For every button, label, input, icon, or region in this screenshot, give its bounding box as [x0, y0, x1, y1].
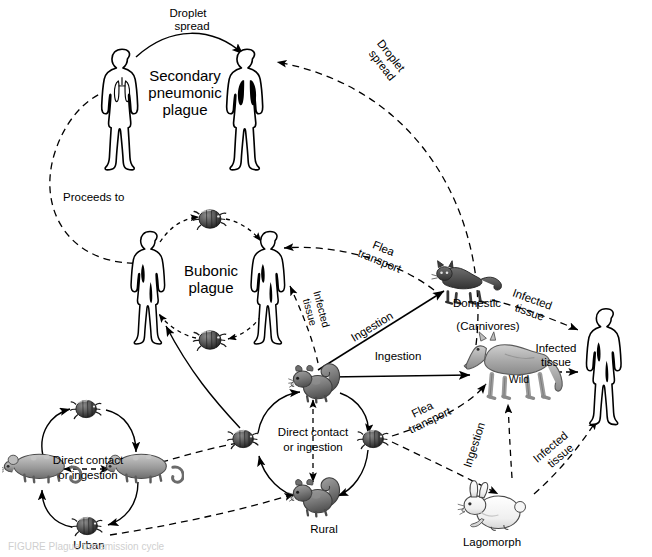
arrow-ingestion-lagomorph: [508, 404, 512, 478]
flea-urban-top: [70, 400, 101, 419]
label-domestic: Domestic: [453, 297, 501, 309]
rabbit-lagomorph: [458, 481, 526, 531]
label-ingestion-wild: Ingestion: [375, 350, 422, 362]
label-rural: Rural: [310, 523, 337, 535]
arrow-bubonic-bottom-left: [159, 314, 196, 338]
flea-rural-left: [227, 430, 258, 449]
label-bubonic-line1: Bubonic: [184, 262, 239, 279]
label-ingestion-lagomorph: Ingestion: [461, 421, 487, 469]
label-droplet-spread-top-line1: Droplet: [169, 7, 207, 19]
arrow-rural-right-down: [338, 450, 368, 496]
label-carnivores: (Carnivores): [456, 320, 519, 332]
label-secondary-pneumonic-line1: Secondary: [149, 67, 221, 84]
arrow-urban-bottom-left: [42, 490, 72, 527]
label-proceeds-to: Proceeds to: [63, 191, 124, 203]
squirrel-rural-bottom: [288, 478, 339, 517]
arrow-proceeds-to: [50, 90, 146, 263]
label-bubonic-line2: plague: [188, 279, 233, 296]
flea-bubonic-top: [193, 210, 226, 230]
squirrel-rural-top: [288, 364, 339, 403]
label-direct-contact-rural-line2: or ingestion: [283, 441, 342, 453]
human-pneumonic-source: [102, 49, 138, 170]
flea-rural-right: [357, 430, 388, 449]
arrow-urban-right-down: [108, 482, 138, 525]
plague-transmission-diagram: Droplet spread Secondary pneumonic plagu…: [0, 0, 652, 557]
human-right: [586, 309, 621, 425]
label-direct-contact-urban-line1: Direct contact: [53, 454, 124, 466]
label-secondary-pneumonic-line2: pneumonic: [148, 84, 222, 101]
arrow-urban-flea-to-rural: [110, 494, 294, 535]
arrow-droplet-spread-top: [136, 33, 243, 57]
human-pneumonic-target: [227, 49, 263, 170]
label-droplet-spread-top-line2: spread: [174, 20, 209, 32]
flea-urban-bottom: [71, 517, 102, 536]
label-infected-tissue-wild-line2: tissue: [541, 356, 571, 368]
label-lagomorph: Lagomorph: [463, 536, 521, 548]
arrow-urban-top-right: [106, 410, 136, 452]
figure-caption: FIGURE Plague transmission cycle: [8, 541, 164, 552]
label-wild: Wild: [509, 373, 530, 385]
arrow-bubonic-bottom-right: [228, 316, 261, 339]
arrow-bubonic-top-right: [226, 219, 261, 241]
arrow-ingestion-wild: [330, 375, 470, 377]
human-bubonic-left: [131, 232, 165, 344]
human-bubonic-right: [251, 232, 285, 344]
flea-bubonic-bottom: [193, 331, 226, 351]
label-secondary-pneumonic-line3: plague: [162, 101, 207, 118]
arrow-urban-left-up: [42, 409, 70, 460]
label-infected-tissue-wild-line1: Infected: [536, 342, 577, 354]
label-direct-contact-rural-line1: Direct contact: [278, 426, 349, 438]
label-direct-contact-urban-line2: or ingestion: [58, 469, 117, 481]
